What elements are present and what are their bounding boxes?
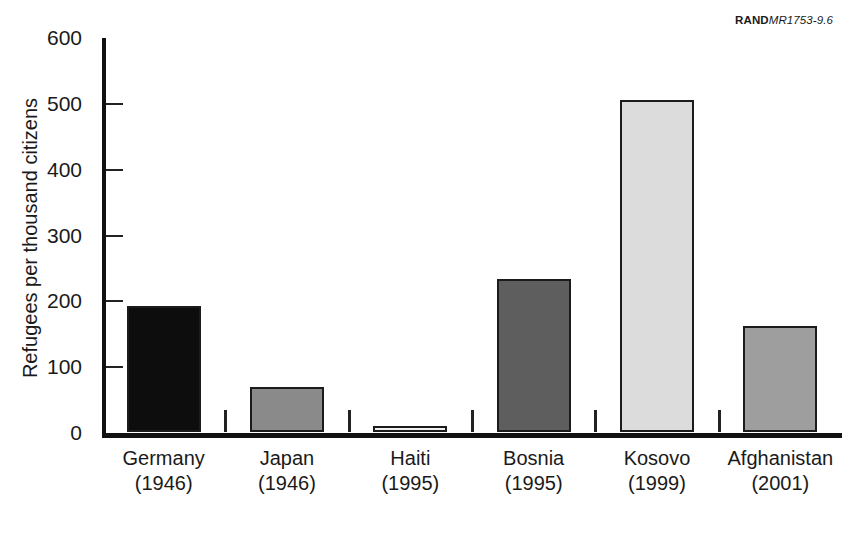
x-axis-separator-tick (471, 410, 474, 432)
x-axis-separator-tick (224, 410, 227, 432)
category-year: (1995) (464, 471, 603, 496)
x-axis-separator-tick (594, 410, 597, 432)
category-name: Japan (217, 446, 356, 471)
bar-afghanistan (743, 326, 817, 432)
bar-germany (127, 306, 201, 432)
x-axis-category-labels: Germany(1946)Japan(1946)Haiti(1995)Bosni… (102, 446, 842, 516)
x-axis-separator-tick (348, 410, 351, 432)
category-year: (2001) (711, 471, 850, 496)
category-year: (1946) (94, 471, 233, 496)
category-year: (1946) (217, 471, 356, 496)
category-label-kosovo: Kosovo(1999) (587, 446, 726, 496)
y-axis-line (102, 38, 106, 437)
category-label-germany: Germany(1946) (94, 446, 233, 496)
y-axis-tick-labels: 6005004003002001000 (0, 38, 94, 437)
y-axis-tick-label: 200 (47, 290, 82, 311)
y-axis-tick-label: 100 (47, 356, 82, 377)
y-axis-tick (106, 235, 123, 237)
x-axis-line (102, 433, 842, 438)
category-name: Haiti (341, 446, 480, 471)
y-axis-tick-label: 0 (70, 422, 82, 443)
x-axis-separator-tick (718, 410, 721, 432)
y-axis-tick (106, 169, 123, 171)
category-year: (1995) (341, 471, 480, 496)
y-axis-tick (106, 366, 123, 368)
y-axis-tick-label: 300 (47, 225, 82, 246)
bar-kosovo (620, 100, 694, 432)
figure-number-label: MR1753-9.6 (769, 14, 833, 26)
y-axis-tick-label: 500 (47, 93, 82, 114)
category-label-bosnia: Bosnia(1995) (464, 446, 603, 496)
category-name: Germany (94, 446, 233, 471)
category-name: Bosnia (464, 446, 603, 471)
y-axis-tick-label: 600 (47, 27, 82, 48)
category-label-haiti: Haiti(1995) (341, 446, 480, 496)
bar-japan (250, 387, 324, 432)
y-axis-tick (106, 300, 123, 302)
figure-caption-partial (92, 524, 562, 533)
category-label-japan: Japan(1946) (217, 446, 356, 496)
bar-bosnia (497, 279, 571, 432)
chart-plot-area (102, 38, 842, 437)
category-year: (1999) (587, 471, 726, 496)
bar-haiti (373, 426, 447, 432)
category-name: Afghanistan (711, 446, 850, 471)
category-name: Kosovo (587, 446, 726, 471)
rand-brand-label: RAND (735, 14, 769, 26)
y-axis-tick-label: 400 (47, 159, 82, 180)
y-axis-tick (106, 103, 123, 105)
category-label-afghanistan: Afghanistan(2001) (711, 446, 850, 496)
figure-identifier: RANDMR1753-9.6 (735, 14, 833, 26)
